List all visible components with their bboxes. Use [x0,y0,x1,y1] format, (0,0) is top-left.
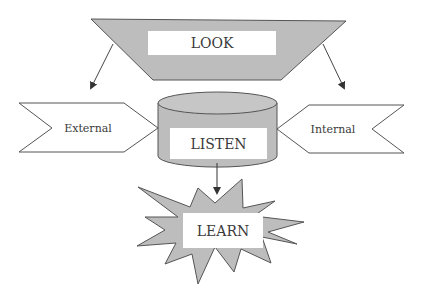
internal-label: Internal [303,119,363,139]
arrow-look-internal [323,44,344,88]
external-label: External [58,118,118,138]
listen-label: LISTEN [170,128,267,159]
look-label: LOOK [148,31,276,55]
arrow-look-external [91,44,113,88]
learn-label: LEARN [183,213,263,248]
